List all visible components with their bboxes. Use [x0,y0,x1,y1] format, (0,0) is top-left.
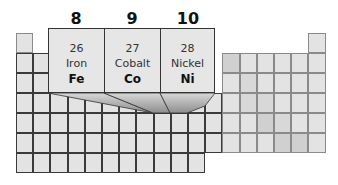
element-name: Cobalt [105,56,160,71]
atomic-number: 27 [105,41,160,56]
element-card-nickel: 28 Nickel Ni [160,28,215,93]
element-name: Iron [49,56,104,71]
element-symbol: Fe [49,71,104,87]
element-name: Nickel [161,56,214,71]
atomic-number: 28 [161,41,214,56]
element-symbol: Ni [161,71,214,87]
atomic-number: 26 [49,41,104,56]
group-label-10: 10 [160,9,216,28]
element-card-cobalt: 27 Cobalt Co [104,28,161,93]
group-label-9: 9 [104,9,160,28]
group-label-8: 8 [48,9,104,28]
element-card-iron: 26 Iron Fe [48,28,105,93]
element-symbol: Co [105,71,160,87]
